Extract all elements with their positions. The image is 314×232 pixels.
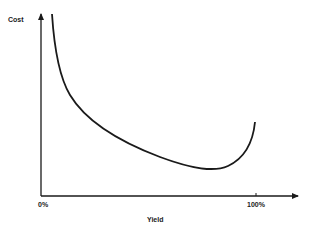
y-axis-label: Cost [8, 16, 24, 23]
x-tick-label-100: 100% [247, 201, 265, 208]
cost-curve [52, 14, 255, 169]
chart-canvas [0, 0, 314, 232]
x-axis-label: Yield [147, 216, 163, 223]
x-tick-label-0: 0% [38, 201, 48, 208]
